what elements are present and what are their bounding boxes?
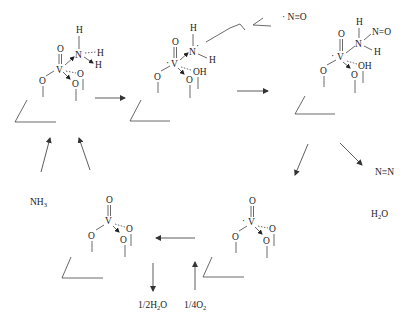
atom-o: O [263,236,270,246]
atom-o-top: O [172,37,179,47]
atom-oh: OH [193,67,207,77]
atom-h: H [97,48,104,58]
atom-o: O [120,235,127,245]
atom-o: O [126,224,133,234]
atom-n: N [75,50,82,60]
atom-oh: OH [358,61,372,71]
atom-o-top: O [106,195,113,205]
atom-o: O [72,79,79,89]
atom-h: H [356,17,363,27]
species-regenerated-vanadium: O V O O O [62,195,133,278]
atom-o: O [77,69,84,79]
atom-h: H [95,60,102,70]
label-nitric-oxide: · N≡O [282,12,307,22]
atom-o: O [154,72,161,82]
atom-h: H [374,47,381,57]
nitric-oxide-reactant: · N≡O [253,12,307,26]
atom-o-top: O [249,196,256,206]
label-ammonia: NH3 [30,197,47,208]
atom-h: H [190,23,197,33]
arrow-release-n2 [340,143,362,165]
species-nitrosamide-intermediate: O · V N H N=O H O OH O [295,17,391,114]
atom-o: O [269,224,276,234]
atom-o: O [232,232,239,242]
atom-h: H [76,25,83,35]
label-water: H2O [371,209,388,220]
label-quarter-oxygen: 1/4O2 [184,300,206,311]
atom-v: V [171,59,178,69]
species-ammonia-adsorbed: O V N H H H O O O [15,25,104,122]
atom-nitroso: N=O [372,27,391,37]
arrow-step-5 [79,138,90,170]
atom-o: O [351,70,358,80]
atom-v: V [248,217,255,227]
arrow-step-3 [295,144,308,175]
species-reduced-vanadium: O · V O O O [203,196,276,277]
arrow-ammonia-input [41,138,50,172]
atom-o: O [88,231,95,241]
radical-dot: · [242,216,245,226]
label-nitrogen: N≡N [375,167,394,177]
atom-o: O [320,66,327,76]
atom-o-top: O [338,29,345,39]
label-half-water: 1/2H2O [138,300,167,311]
atom-o: O [186,75,193,85]
atom-o: O [39,76,46,86]
radical-dot: · [331,51,334,61]
radical-dot: · [196,41,199,51]
species-amide-intermediate: O · V N · H H O OH O [130,23,245,121]
atom-n: N [189,47,196,57]
reaction-mechanism-diagram: O V N H H H O O O O · V N · H H O [0,0,415,325]
atom-v: V [56,65,63,75]
atom-v: V [105,216,112,226]
atom-o-top: O [57,44,64,54]
atom-n: N [355,39,362,49]
atom-v: V [337,52,344,62]
atom-h: H [209,55,216,65]
